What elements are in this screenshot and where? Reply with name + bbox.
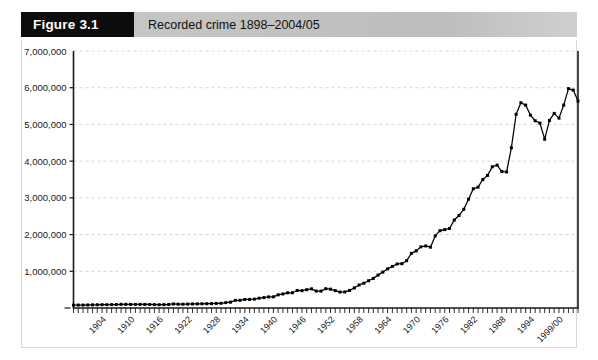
figure-border-box xyxy=(21,40,577,348)
figure-root: Figure 3.1 Recorded crime 1898–2004/05 7… xyxy=(0,0,598,360)
figure-number-tag: Figure 3.1 xyxy=(21,12,134,37)
figure-caption: Recorded crime 1898–2004/05 xyxy=(134,12,577,37)
figure-header: Figure 3.1 Recorded crime 1898–2004/05 xyxy=(21,12,577,37)
